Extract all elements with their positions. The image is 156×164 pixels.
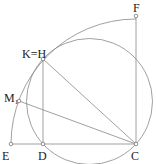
point-D	[41, 142, 45, 146]
label-M1: M1	[4, 92, 18, 106]
label-M1-main: M	[4, 91, 15, 105]
label-KH: K=H	[22, 48, 46, 60]
diagram-canvas	[0, 0, 156, 164]
geometry-diagram: F K=H M1 E D C	[0, 0, 156, 164]
label-E: E	[2, 150, 9, 162]
point-C	[134, 142, 138, 146]
label-F: F	[133, 2, 140, 14]
segment-HC	[43, 59, 136, 144]
segment-M1C	[19, 101, 136, 144]
label-M1-sub: 1	[15, 98, 19, 106]
label-C: C	[131, 150, 139, 162]
label-D: D	[38, 150, 47, 162]
point-E	[9, 142, 13, 146]
